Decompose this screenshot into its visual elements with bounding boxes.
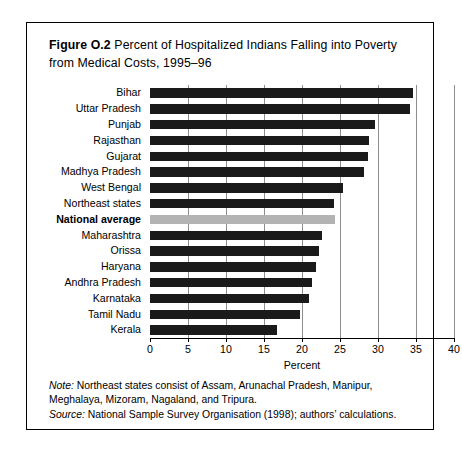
category-label: Orissa xyxy=(27,243,145,259)
category-label: Tamil Nadu xyxy=(27,306,145,322)
x-tick-label: 20 xyxy=(282,343,322,355)
bar-row xyxy=(150,148,454,164)
gridline xyxy=(454,85,455,338)
category-label: Karnataka xyxy=(27,290,145,306)
category-axis-labels: BiharUttar PradeshPunjabRajasthanGujarat… xyxy=(27,85,145,338)
category-label: National average xyxy=(27,211,145,227)
category-label: Haryana xyxy=(27,259,145,275)
bar-row xyxy=(150,132,454,148)
plot-region xyxy=(150,85,454,338)
x-tick xyxy=(340,338,341,342)
x-tick-label: 35 xyxy=(396,343,436,355)
bar xyxy=(150,183,343,192)
figure-notes: Note: Northeast states consist of Assam,… xyxy=(49,379,419,422)
category-label: Northeast states xyxy=(27,196,145,212)
category-label: Punjab xyxy=(27,117,145,133)
bar-row xyxy=(150,85,454,101)
source-line: Source: National Sample Survey Organisat… xyxy=(49,408,419,422)
chart-area: BiharUttar PradeshPunjabRajasthanGujarat… xyxy=(27,81,435,371)
x-tick xyxy=(150,338,151,342)
x-tick-label: 0 xyxy=(130,343,170,355)
bar-row xyxy=(150,290,454,306)
x-tick-label: 15 xyxy=(244,343,284,355)
bar-row xyxy=(150,322,454,338)
bar xyxy=(150,152,368,161)
bar-row xyxy=(150,275,454,291)
bar-row xyxy=(150,101,454,117)
bar xyxy=(150,246,319,255)
bar xyxy=(150,310,300,319)
bar xyxy=(150,294,309,303)
bar-row xyxy=(150,243,454,259)
figure-border-box: Figure O.2 Percent of Hospitalized India… xyxy=(26,22,434,430)
x-tick xyxy=(454,338,455,342)
note-line: Note: Northeast states consist of Assam,… xyxy=(49,379,419,408)
figure-number-label: Figure O.2 xyxy=(49,38,111,52)
bar-row xyxy=(150,117,454,133)
x-tick xyxy=(378,338,379,342)
figure-page: Figure O.2 Percent of Hospitalized India… xyxy=(0,0,462,452)
bar-row xyxy=(150,196,454,212)
source-text: National Sample Survey Organisation (199… xyxy=(85,409,397,420)
bar xyxy=(150,120,375,129)
x-tick-label: 30 xyxy=(358,343,398,355)
bar-row xyxy=(150,227,454,243)
bar-row xyxy=(150,164,454,180)
bar xyxy=(150,215,335,224)
x-tick-label: 25 xyxy=(320,343,360,355)
source-label: Source: xyxy=(49,409,85,420)
x-tick xyxy=(302,338,303,342)
category-label: Uttar Pradesh xyxy=(27,101,145,117)
x-tick xyxy=(188,338,189,342)
x-tick xyxy=(416,338,417,342)
bar-row xyxy=(150,211,454,227)
x-tick-label: 40 xyxy=(434,343,462,355)
bar xyxy=(150,231,322,240)
note-text: Northeast states consist of Assam, Aruna… xyxy=(49,380,372,405)
category-label: West Bengal xyxy=(27,180,145,196)
note-label: Note: xyxy=(49,380,74,391)
bar xyxy=(150,278,312,287)
bar xyxy=(150,104,410,113)
category-label: Maharashtra xyxy=(27,227,145,243)
bar xyxy=(150,136,369,145)
bar xyxy=(150,88,413,97)
category-label: Gujarat xyxy=(27,148,145,164)
bar xyxy=(150,199,334,208)
bar xyxy=(150,325,277,334)
figure-title: Figure O.2 Percent of Hospitalized India… xyxy=(49,37,417,72)
category-label: Kerala xyxy=(27,322,145,338)
x-tick xyxy=(226,338,227,342)
bar-row xyxy=(150,180,454,196)
bar-row xyxy=(150,259,454,275)
category-label: Andhra Pradesh xyxy=(27,275,145,291)
category-label: Bihar xyxy=(27,85,145,101)
category-label: Madhya Pradesh xyxy=(27,164,145,180)
x-axis-title: Percent xyxy=(150,359,454,371)
category-label: Rajasthan xyxy=(27,132,145,148)
bar xyxy=(150,262,316,271)
bar-series xyxy=(150,85,454,338)
x-tick-label: 10 xyxy=(206,343,246,355)
bar xyxy=(150,167,364,176)
x-tick xyxy=(264,338,265,342)
x-tick-label: 5 xyxy=(168,343,208,355)
bar-row xyxy=(150,306,454,322)
